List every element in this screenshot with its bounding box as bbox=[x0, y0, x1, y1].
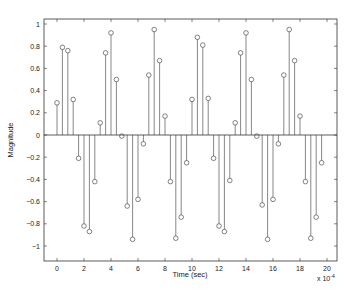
stem-marker bbox=[157, 58, 162, 63]
stem-marker bbox=[314, 215, 319, 220]
y-tick-label: 0.8 bbox=[30, 43, 40, 50]
x-tick-label: 2 bbox=[82, 265, 86, 272]
stem-marker bbox=[195, 35, 200, 40]
stem-marker bbox=[244, 31, 249, 36]
x-tick-label: 4 bbox=[109, 265, 113, 272]
y-tick-label: −0.8 bbox=[26, 220, 40, 227]
stem-marker bbox=[141, 142, 146, 147]
x-tick-label: 18 bbox=[296, 265, 304, 272]
stem-marker bbox=[114, 77, 119, 82]
x-tick-label: 12 bbox=[215, 265, 223, 272]
data-stems bbox=[55, 27, 324, 241]
y-tick-label: 0.2 bbox=[30, 109, 40, 116]
stem-marker bbox=[222, 229, 227, 234]
stem-marker bbox=[125, 204, 130, 209]
stem-marker bbox=[109, 31, 114, 36]
x-axis-label: Time (sec) bbox=[172, 270, 208, 279]
x-tick-label: 16 bbox=[269, 265, 277, 272]
stem-marker bbox=[71, 97, 76, 102]
stem-marker bbox=[292, 58, 297, 63]
y-tick-label: 0 bbox=[36, 132, 40, 139]
stem-marker bbox=[179, 215, 184, 220]
x-tick-label: 8 bbox=[163, 265, 167, 272]
stem-marker bbox=[120, 134, 125, 139]
stem-marker bbox=[168, 179, 173, 184]
stem-marker bbox=[282, 73, 287, 78]
y-tick-label: −1 bbox=[32, 243, 40, 250]
stem-marker bbox=[249, 77, 254, 82]
stem-marker bbox=[271, 197, 276, 202]
stem-marker bbox=[303, 179, 308, 184]
x-tick-label: 0 bbox=[55, 265, 59, 272]
stem-marker bbox=[206, 96, 211, 101]
y-tick-label: 0.4 bbox=[30, 87, 40, 94]
stem-marker bbox=[211, 156, 216, 161]
stem-marker bbox=[103, 51, 108, 56]
stem-plot: 02468101214161820−1−0.8−0.6−0.4−0.200.20… bbox=[0, 0, 357, 296]
stem-marker bbox=[276, 142, 281, 147]
stem-marker bbox=[287, 27, 292, 32]
stem-marker bbox=[98, 120, 103, 125]
stem-marker bbox=[82, 224, 87, 229]
stem-marker bbox=[190, 97, 195, 102]
stem-marker bbox=[60, 45, 65, 50]
y-tick-label: −0.2 bbox=[26, 154, 40, 161]
stem-marker bbox=[309, 236, 314, 241]
y-tick-label: 1 bbox=[36, 21, 40, 28]
stem-marker bbox=[66, 48, 71, 53]
stem-marker bbox=[136, 197, 141, 202]
x-tick-label: 14 bbox=[242, 265, 250, 272]
stem-marker bbox=[238, 51, 243, 56]
stem-marker bbox=[233, 120, 238, 125]
stem-marker bbox=[184, 160, 189, 165]
stem-marker bbox=[174, 236, 179, 241]
stem-marker bbox=[93, 179, 98, 184]
y-tick-label: −0.4 bbox=[26, 176, 40, 183]
stem-marker bbox=[152, 27, 157, 32]
stem-marker bbox=[76, 156, 81, 161]
stem-marker bbox=[260, 203, 265, 208]
stem-marker bbox=[265, 237, 270, 242]
x-exponent-label: x 10-4 bbox=[317, 273, 335, 282]
y-tick-label: 0.6 bbox=[30, 65, 40, 72]
stem-marker bbox=[147, 73, 152, 78]
stem-marker bbox=[217, 224, 222, 229]
x-tick-label: 6 bbox=[136, 265, 140, 272]
stem-marker bbox=[254, 134, 259, 139]
stem-marker bbox=[55, 101, 60, 106]
stem-marker bbox=[319, 160, 324, 165]
stem-marker bbox=[201, 43, 206, 48]
y-tick-label: −0.6 bbox=[26, 198, 40, 205]
stem-marker bbox=[163, 114, 168, 119]
x-tick-label: 20 bbox=[323, 265, 331, 272]
axes-box bbox=[44, 19, 337, 261]
stem-marker bbox=[298, 114, 303, 119]
stem-marker bbox=[130, 237, 135, 242]
stem-marker bbox=[228, 178, 233, 183]
stem-marker bbox=[87, 229, 92, 234]
axis-ticks: 02468101214161820−1−0.8−0.6−0.4−0.200.20… bbox=[26, 19, 337, 272]
y-axis-label: Magnitude bbox=[6, 122, 15, 157]
